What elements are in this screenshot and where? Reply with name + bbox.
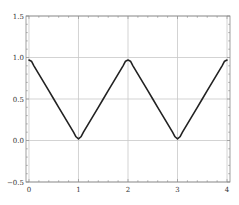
y-tick-label: 0.5 [13,96,24,104]
y-tick-label: 1.5 [13,13,24,21]
x-axis-tick-labels: 01234 [27,186,230,194]
y-tick-label: 1.0 [13,54,24,62]
x-tick-label: 3 [175,186,179,194]
x-tick-label: 2 [126,186,130,194]
x-tick-label: 0 [27,186,31,194]
grid-lines [26,16,230,182]
x-tick-label: 1 [76,186,80,194]
y-tick-label: 0.0 [13,137,24,145]
x-tick-label: 4 [225,186,230,194]
y-axis-tick-labels: −0.50.00.51.01.5 [7,13,24,187]
chart: 01234 −0.50.00.51.01.5 [0,0,239,205]
y-tick-label: −0.5 [7,179,24,187]
